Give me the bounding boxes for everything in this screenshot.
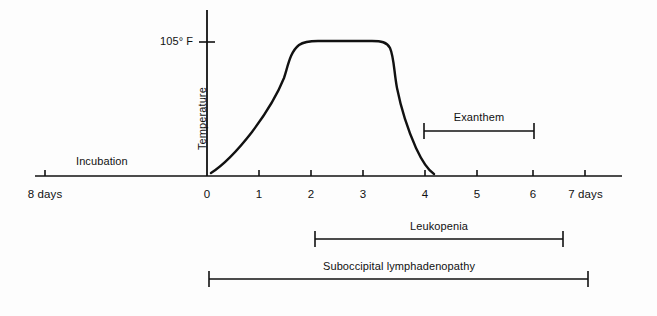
x-label-day-5: 5 [467, 188, 487, 200]
rubella-clinical-course-chart: 105° F Temperature Incubation 8 days 0 1… [0, 0, 657, 316]
suboccipital-lymphadenopathy-bar [209, 271, 588, 287]
lymphadenopathy-label: Suboccipital lymphadenopathy [299, 260, 499, 272]
x-label-day-0: 0 [197, 188, 217, 200]
exanthem-bar [424, 123, 534, 139]
x-label-day-2: 2 [301, 188, 321, 200]
x-label-day-1: 1 [249, 188, 269, 200]
leukopenia-bar [315, 231, 563, 247]
incubation-label: Incubation [76, 155, 128, 167]
x-label-day-6: 6 [523, 188, 543, 200]
x-label-incubation-start: 8 days [15, 188, 75, 200]
temperature-curve [211, 41, 434, 174]
x-label-day-7: 7 days [558, 188, 613, 200]
x-label-day-4: 4 [415, 188, 435, 200]
y-axis-title: Temperature [196, 87, 208, 150]
exanthem-label: Exanthem [419, 111, 539, 123]
x-label-day-3: 3 [353, 188, 373, 200]
y-tick-label-105f: 105° F [160, 35, 193, 47]
leukopenia-label: Leukopenia [379, 220, 499, 232]
